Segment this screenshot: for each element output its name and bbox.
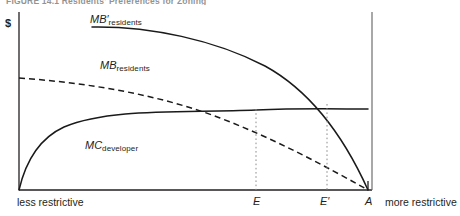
curve-label-mb-residents: MBresidents [100, 60, 150, 71]
curve-mb-residents [19, 78, 368, 190]
x-tick-label-E: E [253, 196, 260, 207]
mb-main-text: MB [100, 59, 117, 71]
mc-main-text: MC [85, 139, 102, 151]
mb-prime-subscript: residents [109, 18, 142, 27]
curve-label-mc-developer: MCdeveloper [85, 140, 138, 151]
x-tick-label-E-prime: E′ [320, 196, 329, 207]
figure-root: FIGURE 14.1 Residents' Preferences for Z… [0, 0, 460, 216]
y-axis-label: $ [5, 18, 11, 29]
zoning-marginal-benefit-cost-chart [0, 0, 460, 216]
curve-label-mb-prime-residents: MB′residents [90, 14, 142, 25]
mb-subscript: residents [117, 64, 150, 73]
mb-prime-main-text: MB′ [90, 13, 109, 25]
x-axis-right-note: more restrictive [385, 197, 457, 208]
mc-subscript: developer [102, 144, 138, 153]
curve-mc-developer [19, 109, 368, 190]
x-axis-left-note: less restrictive [17, 197, 84, 208]
x-tick-label-A: A [365, 196, 372, 207]
